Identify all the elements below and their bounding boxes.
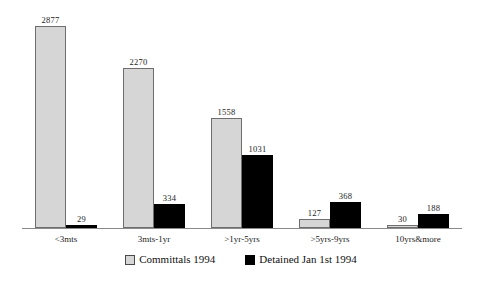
x-axis-tick-label: <3mts: [22, 232, 110, 248]
bar-slot: 2877: [35, 8, 66, 228]
bar-group: 2877 29: [22, 8, 110, 228]
bar-slot: 30: [387, 8, 418, 228]
legend-label: Detained Jan 1st 1994: [259, 253, 356, 266]
bar-value-label: 334: [163, 193, 176, 203]
bar-slot: 368: [330, 8, 361, 228]
x-axis-tick-label: 10yrs&more: [374, 232, 462, 248]
bar-value-label: 188: [427, 203, 440, 213]
bar-value-label: 368: [339, 191, 352, 201]
legend-item-detained[interactable]: Detained Jan 1st 1994: [245, 253, 356, 266]
bar-value-label: 30: [398, 214, 407, 224]
bar-group: 2270 334: [110, 8, 198, 228]
bar-value-label: 127: [308, 208, 321, 218]
bar-slot: 334: [154, 8, 185, 228]
bar-value-label: 2877: [42, 15, 60, 25]
bar-group: 30 188: [374, 8, 462, 228]
bar-slot: 188: [418, 8, 449, 228]
x-axis-tick-label: >1yr-5yrs: [198, 232, 286, 248]
chart-plot-area: 2877 29 2270 334 1558: [22, 8, 462, 228]
bar-committals[interactable]: [123, 68, 154, 228]
x-axis-tick-label: >5yrs-9yrs: [286, 232, 374, 248]
bar-committals[interactable]: [299, 219, 330, 228]
bar-committals[interactable]: [35, 26, 66, 228]
bar-slot: 1031: [242, 8, 273, 228]
x-axis-labels: <3mts 3mts-1yr >1yr-5yrs >5yrs-9yrs 10yr…: [22, 232, 462, 248]
bar-detained[interactable]: [242, 155, 273, 228]
bar-slot: 29: [66, 8, 97, 228]
legend-swatch-icon: [125, 255, 135, 265]
x-axis-tick-label: 3mts-1yr: [110, 232, 198, 248]
legend-swatch-icon: [245, 255, 255, 265]
bar-value-label: 1031: [249, 144, 267, 154]
bar-detained[interactable]: [154, 204, 185, 228]
bar-value-label: 2270: [130, 57, 148, 67]
bar-detained[interactable]: [330, 202, 361, 228]
bar-value-label: 1558: [218, 107, 236, 117]
bar-slot: 127: [299, 8, 330, 228]
bar-value-label: 29: [77, 214, 86, 224]
bar-group: 127 368: [286, 8, 374, 228]
bar-chart: 2877 29 2270 334 1558: [0, 0, 482, 286]
bar-slot: 1558: [211, 8, 242, 228]
chart-legend: Committals 1994 Detained Jan 1st 1994: [0, 253, 482, 266]
bar-detained[interactable]: [418, 214, 449, 228]
legend-label: Committals 1994: [139, 253, 215, 266]
bar-slot: 2270: [123, 8, 154, 228]
bar-committals[interactable]: [211, 118, 242, 228]
bar-group: 1558 1031: [198, 8, 286, 228]
x-axis-line: [22, 228, 462, 229]
legend-item-committals[interactable]: Committals 1994: [125, 253, 215, 266]
